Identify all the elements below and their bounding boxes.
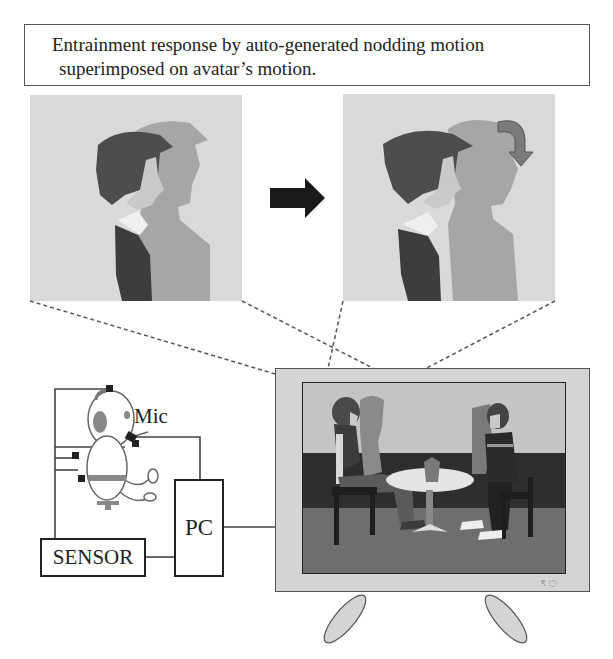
seated-user-with-headset-icon [40, 380, 160, 510]
sensor-box: SENSOR [40, 538, 146, 577]
monitor-indicator: ৎ ◌ [541, 576, 557, 591]
pc-box: PC [174, 479, 224, 577]
pc-label: PC [185, 515, 213, 541]
two-avatars-at-table-scene [302, 382, 566, 574]
monitor-stand-icon [310, 590, 570, 650]
sensor-label: SENSOR [53, 545, 134, 570]
mic-label: Mic [134, 404, 168, 429]
